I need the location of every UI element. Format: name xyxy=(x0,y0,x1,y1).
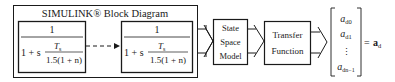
svg-text:ad: ad xyxy=(373,37,382,49)
simulink-title: SIMULINK® Block Diagram xyxy=(42,8,168,19)
result-label: = ad xyxy=(364,37,382,49)
svg-text:Function: Function xyxy=(271,46,304,56)
svg-text:⋮: ⋮ xyxy=(342,47,351,57)
svg-text:ad1: ad1 xyxy=(340,28,352,40)
flow-arrow-2 xyxy=(247,25,264,57)
output-vector: ad0 ad1 ⋮ adn−1 xyxy=(331,8,361,76)
flow-arrow-1 xyxy=(197,25,213,57)
flow-arrow-3 xyxy=(310,27,327,58)
svg-text:Ts: Ts xyxy=(54,41,62,52)
transfer-block-2: 1 1 + s Ts 1.5(1 + n) xyxy=(122,22,193,73)
svg-text:1.5(1 + n): 1.5(1 + n) xyxy=(46,55,82,65)
svg-text:ad0: ad0 xyxy=(340,13,352,25)
svg-text:Transfer: Transfer xyxy=(272,30,302,40)
transfer-function-box: Transfer Function xyxy=(265,22,311,65)
transfer-block-1: 1 1 + s Ts 1.5(1 + n) xyxy=(19,22,86,73)
svg-text:1: 1 xyxy=(50,24,55,35)
block-diagram: SIMULINK® Block Diagram 1 1 + s Ts 1.5(1… xyxy=(0,0,395,82)
svg-text:adn−1: adn−1 xyxy=(337,61,354,73)
state-space-model-box: State Space Model xyxy=(214,20,248,65)
svg-text:Space: Space xyxy=(220,37,241,47)
svg-text:1 + s: 1 + s xyxy=(21,47,41,58)
svg-text:1: 1 xyxy=(155,24,160,35)
svg-text:1.5(1 + n): 1.5(1 + n) xyxy=(150,55,186,65)
svg-text:State: State xyxy=(222,23,239,33)
svg-text:=: = xyxy=(364,37,370,48)
svg-text:1 + s: 1 + s xyxy=(124,47,144,58)
svg-text:Model: Model xyxy=(219,51,242,61)
svg-text:Ts: Ts xyxy=(158,41,166,52)
